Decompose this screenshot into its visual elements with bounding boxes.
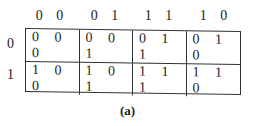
karnaugh-map-grid: 0 0 0 0 0 1 0 1 1 0 1 0 1 0 0 1 0 1 1 1 … [25,28,241,95]
grid-cell: 1 1 1 [133,64,187,97]
column-header: 1 0 [189,8,243,24]
row-header: 0 [7,36,14,52]
grid-cell: 0 0 0 [26,29,80,63]
column-header: 1 1 [134,8,188,24]
grid-cell: 0 1 1 [133,31,187,65]
column-header: 0 1 [80,8,134,24]
figure-caption: (a) [0,103,255,119]
row-header: 1 [7,67,14,83]
grid-cell: 0 1 0 [187,31,241,65]
grid-cell: 1 1 0 [187,64,241,97]
grid-cell: 1 0 0 [26,62,80,95]
grid-cell: 1 0 1 [80,63,134,96]
grid-cell: 0 0 1 [80,30,134,64]
column-header: 0 0 [25,8,79,24]
